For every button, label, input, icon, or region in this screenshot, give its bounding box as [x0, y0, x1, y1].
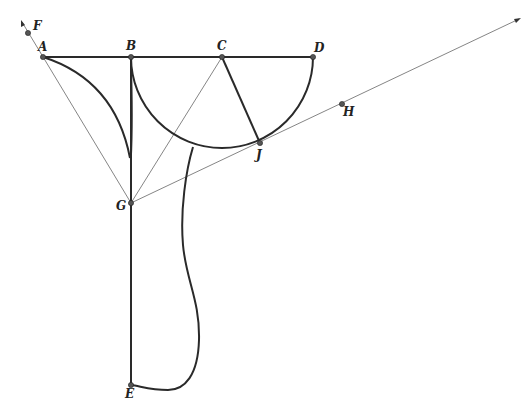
- label-E: E: [124, 387, 135, 401]
- segment-CJ: [222, 57, 260, 143]
- point-D[interactable]: [310, 54, 315, 59]
- label-H: H: [342, 105, 355, 119]
- label-D: D: [313, 41, 325, 55]
- point-B[interactable]: [128, 54, 133, 59]
- diagram-svg: A B C D E F G H J: [0, 0, 532, 406]
- point-A[interactable]: [40, 54, 45, 59]
- label-G: G: [116, 199, 126, 213]
- point-C[interactable]: [219, 54, 224, 59]
- label-A: A: [37, 40, 47, 54]
- label-B: B: [125, 39, 136, 53]
- ray-arrow-head: [514, 18, 521, 23]
- label-C: C: [217, 39, 227, 53]
- semicircle-BD: [131, 57, 313, 148]
- point-J[interactable]: [257, 140, 262, 145]
- ray-GH: [131, 19, 519, 203]
- point-G[interactable]: [128, 200, 133, 205]
- geometry-diagram: A B C D E F G H J: [0, 0, 532, 406]
- label-F: F: [32, 19, 43, 33]
- arc-A: [43, 57, 130, 158]
- label-J: J: [254, 148, 263, 162]
- point-F[interactable]: [25, 30, 30, 35]
- wavy-curve-E: [131, 147, 199, 390]
